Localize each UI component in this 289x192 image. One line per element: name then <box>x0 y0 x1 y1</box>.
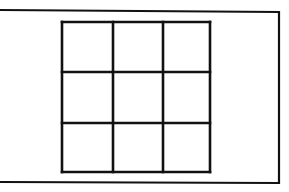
background <box>0 0 289 192</box>
grid-diagram <box>0 0 289 192</box>
